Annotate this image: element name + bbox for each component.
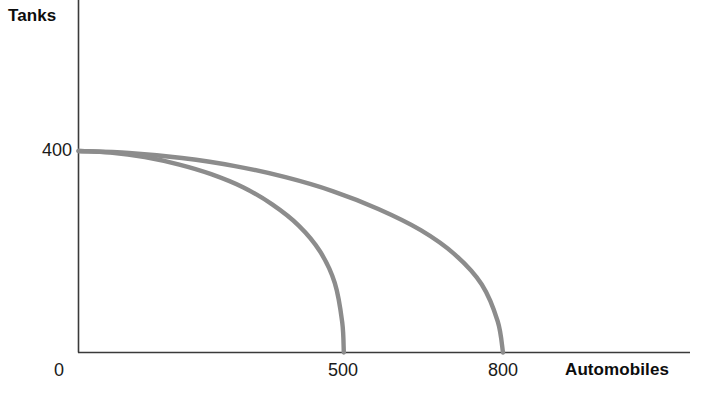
x-axis-tick-origin: 0 [46, 360, 72, 381]
x-axis-tick-500: 500 [317, 360, 369, 381]
y-axis-title: Tanks [8, 6, 56, 26]
outer-frontier-curve [79, 151, 504, 353]
chart-plot-area [0, 0, 710, 408]
y-axis-tick-400: 400 [26, 140, 72, 161]
chart-figure: Tanks Automobiles 400 0 500 800 [0, 0, 710, 408]
x-axis-title: Automobiles [565, 360, 669, 380]
x-axis-tick-800: 800 [477, 360, 529, 381]
